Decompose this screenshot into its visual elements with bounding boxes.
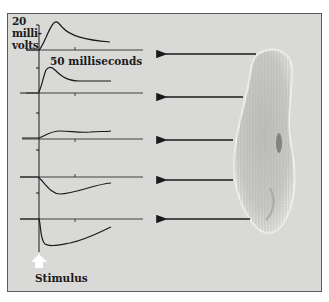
paramecium-illustration <box>234 50 294 233</box>
trace-3 <box>22 131 143 142</box>
up-arrow-icon <box>31 254 47 268</box>
electrophysiology-diagram <box>0 0 329 302</box>
trace-2 <box>20 67 143 96</box>
trace-5 <box>20 219 143 246</box>
y-scale-unit-1: milli- <box>12 27 42 39</box>
y-scale-unit-2: volts <box>12 39 42 51</box>
trace-4 <box>20 174 143 194</box>
stimulus-label: Stimulus <box>35 272 88 284</box>
y-scale-value: 20 <box>12 15 42 27</box>
y-scale-label: 20 milli- volts <box>12 15 42 51</box>
x-scale-label: 50 milliseconds <box>50 55 142 67</box>
trace-1 <box>26 22 143 50</box>
